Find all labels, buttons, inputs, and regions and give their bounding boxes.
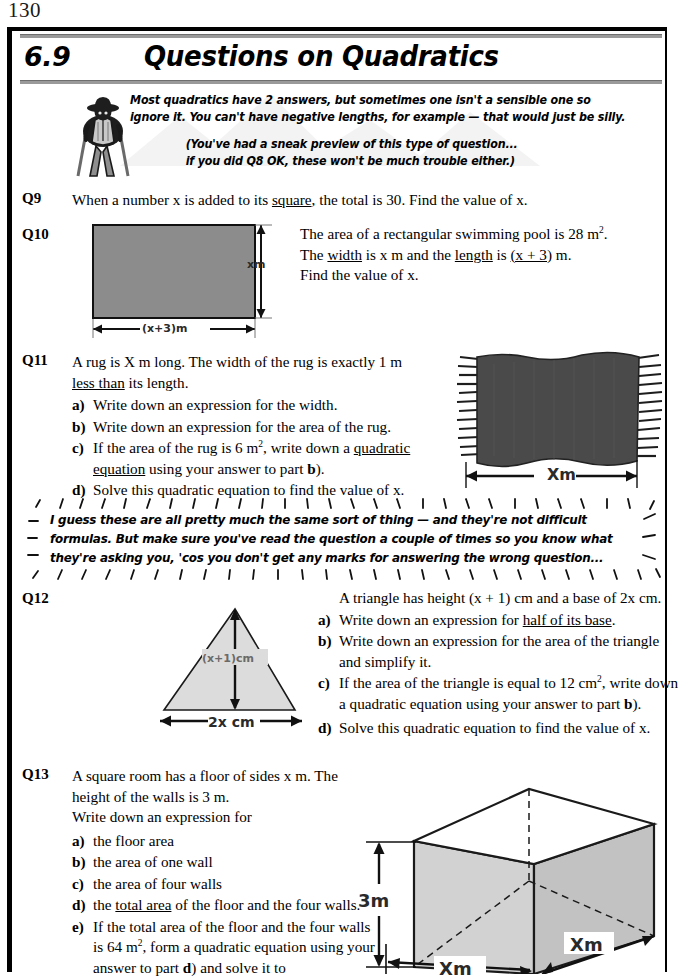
q13-part-d: d) the total area of the floor and the f… — [72, 895, 382, 916]
q12-part-a: a) Write down an expression for half of … — [318, 610, 680, 631]
intro-line-4: if you did Q8 OK, these won't be much tr… — [186, 153, 639, 170]
intro-line-3: (You've had a sneak preview of this type… — [186, 136, 639, 153]
intro-blurb: Most quadratics have 2 answers, but some… — [130, 92, 639, 170]
q12-underline-half-base: half of its base — [523, 611, 612, 628]
q9-label: Q9 — [22, 190, 41, 207]
q12-height-label: (x+1)cm — [202, 652, 254, 665]
q13-underline-total-area: total area — [115, 896, 171, 913]
q10-height-label: xm — [247, 258, 266, 271]
swimming-pool-diagram — [72, 223, 287, 338]
q13-line-2: height of the walls is 3 m. — [72, 787, 382, 808]
q13-width-front-label: Xm — [439, 958, 472, 979]
q10-line-2: The width is x m and the length is (x + … — [300, 245, 680, 266]
q12-part-d: d) Solve this quadratic equation to find… — [318, 718, 680, 739]
q12-parts-list: a) Write down an expression for half of … — [318, 610, 680, 739]
q11-parts-list: a) Write down an expression for the widt… — [72, 395, 452, 501]
header-rule-bottom — [20, 80, 662, 84]
q13-part-b: b) the area of one wall — [72, 852, 382, 873]
q10-label: Q10 — [22, 226, 49, 243]
q13-part-e: e) If the total area of the floor and th… — [72, 917, 382, 979]
q11-text: A rug is X m long. The width of the rug … — [72, 352, 452, 501]
q12-label: Q12 — [22, 590, 49, 607]
page-title: Questions on Quadratics — [37, 40, 643, 73]
q9-text-part-b: , the total is 30. Find the value of x. — [312, 191, 528, 208]
q13-parts-list: a) the floor area b) the area of one wal… — [72, 831, 382, 979]
q9-text-part-a: When a number x is added to its — [72, 191, 272, 208]
note-line-1: I guess these are all pretty much the sa… — [50, 511, 632, 530]
header-rule-top — [20, 34, 662, 38]
intro-line-2: ignore it. You can't have negative lengt… — [130, 110, 625, 124]
q13-text: A square room has a floor of sides x m. … — [72, 766, 382, 978]
tip-note-box: I guess these are all pretty much the sa… — [14, 497, 664, 581]
q12-base-label: 2x cm — [208, 714, 255, 730]
q10-text: The area of a rectangular swimming pool … — [300, 224, 680, 286]
q11-line-2: less than its length. — [72, 373, 452, 394]
q13-part-c: c) the area of four walls — [72, 874, 382, 895]
q10-line-3: Find the value of x. — [300, 265, 680, 286]
question-q9: Q9 When a number x is added to its squar… — [22, 190, 652, 211]
q10-line-1: The area of a rectangular swimming pool … — [300, 224, 680, 245]
q12-part-c: c) If the area of the triangle is equal … — [318, 673, 680, 714]
note-line-2: formulas. But make sure you've read the … — [50, 530, 632, 549]
section-header: 6.9 Questions on Quadratics — [14, 33, 666, 83]
q13-label: Q13 — [22, 766, 49, 783]
q11-part-a: a) Write down an expression for the widt… — [72, 395, 452, 416]
q12-text: A triangle has height (x + 1) cm and a b… — [318, 588, 680, 739]
q11-label: Q11 — [22, 352, 48, 369]
q13-height-label: 3m — [358, 890, 389, 911]
q12-part-b: b) Write down an expression for the area… — [318, 631, 680, 672]
q10-underline-width: width — [327, 246, 362, 263]
q11-line-1: A rug is X m long. The width of the rug … — [72, 352, 452, 373]
hiker-mascot-icon — [74, 94, 132, 178]
q13-part-a: a) the floor area — [72, 831, 382, 852]
q13-width-side-label: Xm — [570, 934, 603, 955]
question-q13: Q13 A square room has a floor of sides x… — [22, 766, 662, 978]
q11-part-c: c) If the area of the rug is 6 m2, write… — [72, 438, 452, 479]
room-cuboid-diagram — [354, 784, 674, 974]
q11-width-label: Xm — [547, 465, 576, 484]
q13-line-1: A square room has a floor of sides x m. … — [72, 766, 382, 787]
q10-underline-expr: (x + 3) — [511, 246, 552, 263]
q10-underline-length: length — [455, 246, 493, 263]
q11-part-b: b) Write down an expression for the area… — [72, 417, 452, 438]
q12-intro: A triangle has height (x + 1) cm and a b… — [318, 588, 680, 609]
tip-note-text: I guess these are all pretty much the sa… — [50, 511, 632, 568]
note-line-3: they're asking you, 'cos you don't get a… — [50, 549, 632, 568]
intro-line-1: Most quadratics have 2 answers, but some… — [130, 93, 591, 107]
page-number: 130 — [8, 0, 41, 23]
question-q11: Q11 A rug is X m long. The width of the … — [22, 352, 662, 501]
q9-text: When a number x is added to its square, … — [72, 190, 652, 211]
q11-underline-lessthan: less than — [72, 374, 125, 391]
q10-width-label: (x+3)m — [142, 322, 187, 335]
q9-underlined-square: square — [272, 191, 312, 208]
q13-line-3: Write down an expression for — [72, 807, 382, 828]
